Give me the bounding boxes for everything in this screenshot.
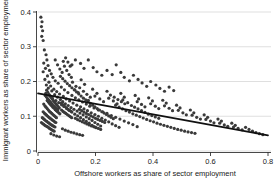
data-point xyxy=(119,92,122,95)
data-point xyxy=(89,96,92,99)
y-axis-tick-labels: 00.10.20.30.4 xyxy=(21,8,31,156)
data-point xyxy=(171,109,174,112)
data-point xyxy=(69,65,72,68)
data-point xyxy=(42,70,45,73)
data-point xyxy=(189,108,192,111)
data-point xyxy=(247,128,250,131)
data-point xyxy=(135,114,138,117)
data-point xyxy=(191,114,194,117)
data-point xyxy=(209,120,212,123)
data-point xyxy=(176,128,179,131)
data-point xyxy=(173,127,176,130)
data-point xyxy=(55,90,58,93)
data-point xyxy=(87,58,90,61)
data-point xyxy=(186,130,189,133)
data-point xyxy=(216,117,219,120)
data-point xyxy=(70,116,73,119)
data-point xyxy=(123,76,126,79)
data-point xyxy=(45,58,48,61)
data-point xyxy=(43,78,46,81)
data-point xyxy=(78,86,81,89)
data-point xyxy=(157,107,160,110)
data-point xyxy=(47,81,50,84)
data-point xyxy=(168,107,171,110)
data-point xyxy=(50,89,53,92)
data-point xyxy=(128,79,131,82)
data-point xyxy=(91,88,94,91)
data-point xyxy=(107,120,110,123)
data-point xyxy=(64,129,67,132)
data-point xyxy=(165,101,168,104)
data-point xyxy=(136,107,139,110)
data-point xyxy=(62,60,65,63)
data-point xyxy=(88,105,91,108)
y-tick-label: 0.4 xyxy=(21,8,31,17)
data-point xyxy=(79,116,82,119)
data-point xyxy=(88,117,91,120)
data-point xyxy=(61,127,64,130)
data-point xyxy=(75,104,78,107)
data-point xyxy=(195,116,198,119)
data-point xyxy=(95,92,98,95)
x-tick-label: 0 xyxy=(36,157,40,166)
data-point xyxy=(55,116,58,119)
data-point xyxy=(48,69,51,72)
data-point xyxy=(65,69,68,72)
x-axis-tick-labels: 00.20.40.60.8 xyxy=(36,157,273,166)
data-point xyxy=(42,61,45,64)
data-point xyxy=(113,96,116,99)
x-tick-label: 0.6 xyxy=(205,157,215,166)
data-point xyxy=(79,62,82,65)
data-point xyxy=(136,100,139,103)
data-point xyxy=(92,66,95,69)
data-point xyxy=(98,97,101,100)
y-tick-label: 0.3 xyxy=(21,42,31,51)
data-point xyxy=(74,58,77,61)
data-point xyxy=(66,60,69,63)
data-point xyxy=(145,85,148,88)
data-point xyxy=(100,74,103,77)
data-point xyxy=(137,97,140,100)
data-point xyxy=(203,113,206,116)
data-point xyxy=(40,25,43,28)
y-axis-title: Immigrant workers as share of sector emp… xyxy=(1,0,10,161)
data-point xyxy=(126,101,129,104)
data-point xyxy=(42,39,45,42)
data-point xyxy=(85,115,88,118)
data-point xyxy=(149,80,152,83)
data-point xyxy=(61,77,64,80)
data-point xyxy=(44,53,47,56)
data-point xyxy=(70,76,73,79)
data-point xyxy=(163,90,166,93)
data-point xyxy=(166,125,169,128)
data-point xyxy=(67,73,70,76)
data-point xyxy=(81,134,84,137)
x-tick-label: 0.4 xyxy=(148,157,158,166)
data-point xyxy=(83,83,86,86)
data-point xyxy=(114,124,117,127)
data-point xyxy=(60,85,63,88)
data-point xyxy=(54,58,57,61)
data-point xyxy=(54,121,57,124)
data-point xyxy=(162,124,165,127)
data-point xyxy=(204,118,207,121)
data-point xyxy=(177,109,180,112)
data-point xyxy=(80,78,83,81)
data-point xyxy=(70,94,73,97)
data-point xyxy=(116,98,119,101)
data-point xyxy=(82,113,85,116)
data-point xyxy=(118,117,121,120)
data-point xyxy=(44,67,47,70)
data-point xyxy=(230,122,233,125)
data-point xyxy=(123,120,126,123)
data-point xyxy=(175,104,178,107)
data-point xyxy=(53,130,56,133)
y-tick-label: 0.2 xyxy=(21,77,31,86)
data-point xyxy=(93,94,96,97)
x-tick-label: 0.8 xyxy=(263,157,273,166)
scatter-plot-figure: 00.20.40.60.8 00.10.20.30.4 Offshore wor… xyxy=(0,0,279,178)
data-point xyxy=(61,71,64,74)
data-point xyxy=(114,104,117,107)
data-point xyxy=(212,121,215,124)
data-point xyxy=(131,123,134,126)
